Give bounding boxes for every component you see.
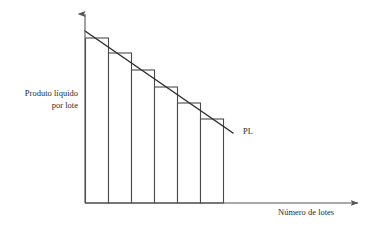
y-axis-label-line-2: por lote — [52, 100, 78, 110]
bar-lot-6 — [201, 119, 224, 203]
bar-lot-1 — [86, 38, 109, 203]
y-axis-label-line-1: Produto líquido — [25, 88, 78, 98]
x-axis-label: Número de lotes — [278, 207, 334, 219]
y-axis-label: Produto líquidopor lote — [4, 88, 78, 111]
bar-lot-2 — [109, 53, 132, 203]
economics-diagram: Produto líquidopor lote Número de lotes … — [0, 0, 384, 230]
bar-lot-5 — [178, 103, 201, 203]
bar-group — [86, 38, 224, 203]
pl-curve-label: PL — [243, 126, 253, 138]
diagram-canvas — [0, 0, 384, 230]
bar-lot-4 — [155, 87, 178, 203]
bar-lot-3 — [132, 70, 155, 203]
